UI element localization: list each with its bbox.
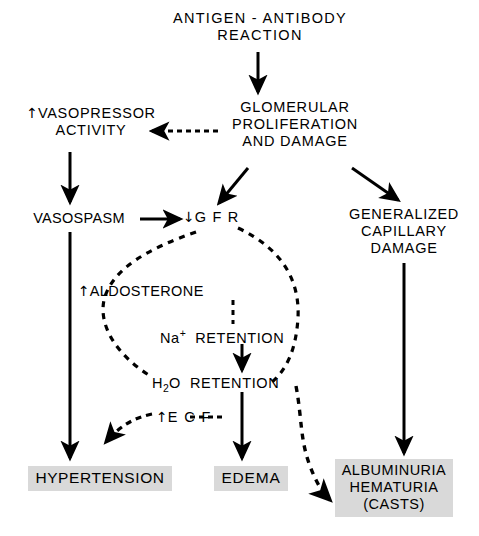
albuminuria-box: ALBUMINURIA HEMATURIA (CASTS) bbox=[335, 459, 454, 517]
aldosterone-line: ↑ALDOSTERONE bbox=[78, 283, 233, 300]
capillary-line-2: CAPILLARY bbox=[330, 223, 478, 240]
h2o-retention-label: RETENTION bbox=[190, 375, 279, 391]
node-hypertension: HYPERTENSION bbox=[16, 466, 184, 491]
oxygen-symbol: O bbox=[169, 375, 181, 391]
albuminuria-line-1: ALBUMINURIA bbox=[342, 462, 447, 479]
edema-label: EDEMA bbox=[221, 469, 280, 486]
glomerular-line-3: AND DAMAGE bbox=[215, 133, 375, 150]
vasopressor-label: VASOPRESSOR bbox=[38, 105, 156, 121]
na-retention-label: RETENTION bbox=[195, 330, 284, 346]
node-antigen-antibody-reaction: ANTIGEN - ANTIBODY REACTION bbox=[160, 10, 360, 44]
edge-gfr-to-aldosterone bbox=[103, 232, 196, 377]
hypertension-label: HYPERTENSION bbox=[35, 469, 164, 486]
sodium-symbol: Na bbox=[160, 330, 180, 346]
capillary-line-1: GENERALIZED bbox=[330, 206, 478, 223]
gfr-line: ↓G F R bbox=[183, 209, 257, 226]
hypertension-box: HYPERTENSION bbox=[28, 466, 171, 491]
ecf-line: ↑E C F bbox=[156, 409, 226, 426]
decrease-arrow-icon: ↓ bbox=[183, 209, 195, 225]
diagram-canvas: ANTIGEN - ANTIBODY REACTION GLOMERULAR P… bbox=[0, 0, 479, 536]
sodium-charge: + bbox=[180, 328, 186, 339]
node-gfr: ↓G F R bbox=[183, 209, 257, 226]
aldosterone-label: ALDOSTERONE bbox=[90, 283, 204, 299]
na-retention-line: Na+ RETENTION bbox=[160, 328, 310, 347]
node-vasospasm: VASOSPASM bbox=[14, 210, 144, 227]
increase-arrow-icon: ↑ bbox=[26, 105, 38, 121]
antigen-line-1: ANTIGEN - ANTIBODY bbox=[160, 10, 360, 27]
node-vasopressor-activity: ↑VASOPRESSOR ACTIVITY bbox=[6, 105, 176, 139]
node-edema: EDEMA bbox=[203, 466, 299, 491]
vasopressor-line-2: ACTIVITY bbox=[6, 122, 176, 139]
vasopressor-line-1: ↑VASOPRESSOR bbox=[6, 105, 176, 122]
capillary-line-3: DAMAGE bbox=[330, 240, 478, 257]
glomerular-line-2: PROLIFERATION bbox=[215, 116, 375, 133]
h2o-retention-line: H2O RETENTION bbox=[152, 375, 312, 395]
node-glomerular-proliferation-and-damage: GLOMERULAR PROLIFERATION AND DAMAGE bbox=[215, 99, 375, 150]
albuminuria-line-3: (CASTS) bbox=[342, 496, 447, 513]
node-aldosterone: ↑ALDOSTERONE bbox=[78, 283, 233, 300]
node-generalized-capillary-damage: GENERALIZED CAPILLARY DAMAGE bbox=[330, 206, 478, 257]
connector-layer bbox=[0, 0, 479, 536]
edge-glomerular-to-capillary bbox=[352, 168, 398, 200]
albuminuria-line-2: HEMATURIA bbox=[342, 479, 447, 496]
node-water-retention: H2O RETENTION bbox=[152, 375, 312, 395]
glomerular-line-1: GLOMERULAR bbox=[215, 99, 375, 116]
vasospasm-label: VASOSPASM bbox=[14, 210, 144, 227]
edge-glomerular-to-gfr bbox=[219, 168, 248, 203]
hydrogen-symbol: H bbox=[152, 375, 163, 391]
node-ecf: ↑E C F bbox=[156, 409, 226, 426]
increase-arrow-icon: ↑ bbox=[78, 283, 90, 299]
node-sodium-retention: Na+ RETENTION bbox=[160, 328, 310, 347]
antigen-line-2: REACTION bbox=[160, 27, 360, 44]
increase-arrow-icon: ↑ bbox=[156, 409, 168, 425]
edge-ecf-to-hypertension bbox=[106, 414, 152, 442]
ecf-label: E C F bbox=[168, 409, 212, 425]
node-albuminuria-hematuria-casts: ALBUMINURIA HEMATURIA (CASTS) bbox=[318, 459, 470, 517]
gfr-label: G F R bbox=[195, 209, 240, 225]
edge-gfr-to-h2o-retention bbox=[238, 228, 298, 382]
edema-box: EDEMA bbox=[214, 466, 287, 491]
